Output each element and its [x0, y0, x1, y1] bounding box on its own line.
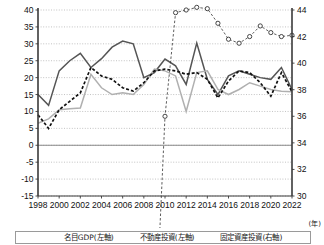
svg-text:2004: 2004 [92, 200, 111, 210]
svg-text:42: 42 [297, 32, 307, 42]
svg-text:36: 36 [297, 111, 307, 121]
svg-text:2008: 2008 [134, 200, 153, 210]
legend-label-1: 不動産投資(左軸) [140, 234, 195, 242]
axes-group [38, 8, 292, 196]
svg-text:2020: 2020 [261, 200, 280, 210]
svg-text:2012: 2012 [177, 200, 196, 210]
legend-label-0: 名目GDP(左軸) [64, 234, 114, 242]
legend-label-2: 固定資産投資(右軸) [220, 234, 282, 242]
svg-text:34: 34 [297, 138, 307, 148]
svg-text:2000: 2000 [50, 200, 69, 210]
svg-text:10: 10 [24, 106, 34, 116]
svg-text:2010: 2010 [156, 200, 175, 210]
svg-text:-5: -5 [26, 157, 34, 167]
svg-text:2002: 2002 [71, 200, 90, 210]
chart-legend: 名目GDP(左軸) 不動産投資(左軸) 固定資産投資(右軸) [15, 231, 311, 244]
y-axis-left-labels: 4035302520151050-5-10-15 [21, 5, 38, 201]
svg-text:0: 0 [29, 140, 34, 150]
svg-text:35: 35 [24, 22, 34, 32]
svg-text:44: 44 [297, 5, 307, 15]
legend-item-1: 不動産投資(左軸) [120, 234, 195, 242]
svg-text:15: 15 [24, 90, 34, 100]
x-axis-labels: 1998200020022004200620082010201220142016… [29, 196, 302, 210]
svg-text:-10: -10 [21, 174, 34, 184]
svg-text:2018: 2018 [240, 200, 259, 210]
x-axis-unit-label: (年) [309, 218, 321, 228]
svg-text:1998: 1998 [29, 200, 48, 210]
svg-text:2022: 2022 [283, 200, 302, 210]
svg-text:5: 5 [29, 123, 34, 133]
svg-text:2016: 2016 [219, 200, 238, 210]
svg-text:40: 40 [297, 58, 307, 68]
series-group [36, 5, 294, 228]
svg-text:40: 40 [24, 5, 34, 15]
chart-svg: 4035302520151050-5-10-15 444240383634323… [0, 0, 324, 228]
svg-text:2006: 2006 [113, 200, 132, 210]
gridlines-group [38, 10, 292, 196]
chart-container: 4035302520151050-5-10-15 444240383634323… [0, 0, 324, 245]
svg-text:30: 30 [24, 39, 34, 49]
svg-text:38: 38 [297, 85, 307, 95]
svg-text:25: 25 [24, 56, 34, 66]
legend-item-0: 名目GDP(左軸) [44, 234, 114, 242]
svg-text:32: 32 [297, 164, 307, 174]
svg-text:2014: 2014 [198, 200, 217, 210]
plot-area: 4035302520151050-5-10-15 444240383634323… [0, 0, 324, 228]
svg-text:20: 20 [24, 73, 34, 83]
legend-item-2: 固定資産投資(右軸) [200, 234, 282, 242]
